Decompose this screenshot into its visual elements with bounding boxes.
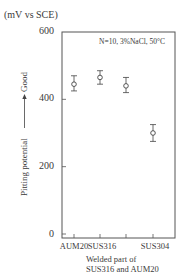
data-point <box>150 125 156 142</box>
data-points <box>71 71 156 142</box>
x-tick-label-aum20: AUM20 <box>60 241 88 251</box>
y-axis-ticks <box>62 99 66 234</box>
data-point <box>123 77 129 92</box>
x-tick-label-sus304: SUS304 <box>141 241 169 251</box>
data-point <box>71 76 77 91</box>
y-axis-good-label: Good <box>19 72 29 92</box>
welded-label-line-2: SUS316 and AUM20 <box>86 264 159 274</box>
unit-label: (mV vs SCE) <box>4 9 58 20</box>
x-axis-ticks <box>74 234 153 238</box>
plot-frame <box>62 32 175 238</box>
y-axis-label: Pitting potential <box>19 138 29 196</box>
test-conditions-annotation: N=10, 3%NaCl, 50°C <box>99 37 165 46</box>
y-tick-label-0: 0 <box>30 228 54 239</box>
y-tick-label-200: 200 <box>30 160 54 171</box>
y-tick-label-600: 600 <box>30 25 54 36</box>
x-tick-label-sus316: SUS316 <box>88 241 116 251</box>
y-tick-label-400: 400 <box>30 92 54 103</box>
arrow-icon <box>22 94 26 128</box>
data-point <box>97 71 103 84</box>
x-label-welded-part: Welded part of SUS316 and AUM20 <box>86 254 159 274</box>
welded-label-line-1: Welded part of <box>86 254 159 264</box>
